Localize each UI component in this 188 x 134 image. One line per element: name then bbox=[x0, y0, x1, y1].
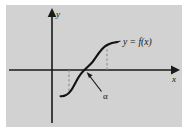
alpha-label: α bbox=[103, 91, 108, 101]
y-axis-label: y bbox=[55, 9, 60, 19]
curve-label: y = f(x) bbox=[122, 37, 152, 48]
alpha-pointer-arrow-icon bbox=[87, 72, 93, 78]
y-axis-arrow-icon bbox=[48, 8, 57, 17]
alpha-pointer-line bbox=[89, 75, 102, 92]
x-axis-label: x bbox=[171, 74, 176, 84]
graph-canvas: y x y = f(x) α bbox=[0, 0, 188, 134]
function-curve bbox=[61, 42, 118, 96]
figure-root: y x y = f(x) α bbox=[0, 0, 188, 134]
